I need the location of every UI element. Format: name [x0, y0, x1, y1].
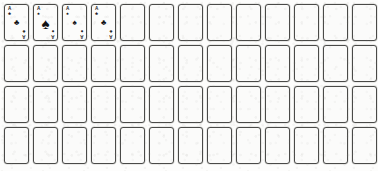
empty-card-slot[interactable]	[294, 127, 319, 164]
empty-card-slot[interactable]	[91, 45, 116, 82]
empty-card-slot[interactable]	[323, 4, 348, 41]
empty-card-slot[interactable]	[4, 45, 29, 82]
empty-card-slot[interactable]	[62, 86, 87, 123]
empty-card-slot[interactable]	[33, 127, 58, 164]
club-icon: ♣	[94, 12, 100, 17]
empty-card-slot[interactable]	[207, 127, 232, 164]
empty-card-slot[interactable]	[352, 127, 377, 164]
empty-card-slot[interactable]	[4, 127, 29, 164]
card-row	[0, 86, 378, 124]
card-rank-label: A	[21, 33, 27, 38]
card-corner-index-br: A♣	[108, 28, 114, 38]
empty-card-slot[interactable]	[4, 86, 29, 123]
empty-card-slot[interactable]	[294, 86, 319, 123]
empty-card-slot[interactable]	[62, 127, 87, 164]
card-rank-label: A	[50, 33, 56, 38]
empty-card-slot[interactable]	[120, 45, 145, 82]
empty-card-slot[interactable]	[236, 45, 261, 82]
empty-card-slot[interactable]	[149, 4, 174, 41]
card-corner-index-br: A♣	[21, 28, 27, 38]
card-corner-index-tl: A♣	[94, 7, 100, 17]
empty-card-slot[interactable]	[323, 45, 348, 82]
card-row	[0, 127, 378, 165]
empty-card-slot[interactable]	[265, 4, 290, 41]
card-a-of-spades[interactable]: A♠A♠♠	[33, 4, 58, 41]
empty-card-slot[interactable]	[294, 4, 319, 41]
empty-card-slot[interactable]	[265, 45, 290, 82]
card-rank-label: A	[79, 33, 85, 38]
card-a-of-spades[interactable]: A♠A♠♠	[62, 4, 87, 41]
club-icon: ♣	[108, 28, 114, 33]
empty-card-slot[interactable]	[352, 86, 377, 123]
empty-card-slot[interactable]	[120, 127, 145, 164]
empty-card-slot[interactable]	[207, 45, 232, 82]
card-row	[0, 45, 378, 83]
empty-card-slot[interactable]	[120, 86, 145, 123]
empty-card-slot[interactable]	[323, 86, 348, 123]
empty-card-slot[interactable]	[91, 86, 116, 123]
empty-card-slot[interactable]	[207, 4, 232, 41]
empty-card-slot[interactable]	[265, 86, 290, 123]
empty-card-slot[interactable]	[33, 45, 58, 82]
empty-card-slot[interactable]	[178, 127, 203, 164]
empty-card-slot[interactable]	[149, 45, 174, 82]
empty-card-slot[interactable]	[62, 45, 87, 82]
club-pip-icon: ♣	[5, 19, 28, 27]
empty-card-slot[interactable]	[178, 4, 203, 41]
card-rank-label: A	[108, 33, 114, 38]
card-grid: A♣A♣♣A♠A♠♠A♠A♠♠A♣A♣♣	[0, 0, 378, 171]
empty-card-slot[interactable]	[352, 4, 377, 41]
empty-card-slot[interactable]	[236, 127, 261, 164]
empty-card-slot[interactable]	[294, 45, 319, 82]
empty-card-slot[interactable]	[323, 127, 348, 164]
card-corner-index-br: A♠	[79, 28, 85, 38]
card-corner-index-tl: A♠	[65, 7, 71, 17]
empty-card-slot[interactable]	[120, 4, 145, 41]
empty-card-slot[interactable]	[149, 86, 174, 123]
card-row: A♣A♣♣A♠A♠♠A♠A♠♠A♣A♣♣	[0, 4, 378, 42]
empty-card-slot[interactable]	[265, 127, 290, 164]
empty-card-slot[interactable]	[178, 86, 203, 123]
spade-pip-icon: ♠	[63, 19, 86, 27]
empty-card-slot[interactable]	[33, 86, 58, 123]
spade-icon: ♠	[79, 28, 85, 33]
club-icon: ♣	[21, 28, 27, 33]
empty-card-slot[interactable]	[207, 86, 232, 123]
empty-card-slot[interactable]	[236, 4, 261, 41]
empty-card-slot[interactable]	[91, 127, 116, 164]
card-corner-index-tl: A♣	[7, 7, 13, 17]
spade-icon: ♠	[65, 12, 71, 17]
empty-card-slot[interactable]	[352, 45, 377, 82]
empty-card-slot[interactable]	[149, 127, 174, 164]
empty-card-slot[interactable]	[236, 86, 261, 123]
empty-card-slot[interactable]	[178, 45, 203, 82]
card-a-of-clubs[interactable]: A♣A♣♣	[4, 4, 29, 41]
spade-pip-icon: ♠	[34, 15, 57, 30]
club-icon: ♣	[7, 12, 13, 17]
card-a-of-clubs[interactable]: A♣A♣♣	[91, 4, 116, 41]
club-pip-icon: ♣	[92, 19, 115, 27]
